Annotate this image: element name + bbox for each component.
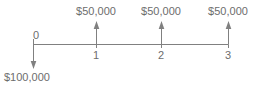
cash-flow-timeline-diagram: 0 $100,000 $50,000 $50,000 $50,000 1 2 3: [0, 0, 264, 91]
inflow-amount-label-1: $50,000: [76, 6, 116, 17]
inflow-amount-label-3: $50,000: [208, 6, 248, 17]
outflow-arrowhead-0: [31, 61, 37, 69]
inflow-arrowhead-2: [159, 21, 165, 29]
outflow-amount-label-0: $100,000: [4, 72, 50, 83]
period-label-1: 1: [93, 50, 99, 61]
period-label-2: 2: [158, 50, 164, 61]
inflow-arrowhead-3: [226, 21, 232, 29]
period-label-0: 0: [33, 30, 39, 41]
inflow-amount-label-2: $50,000: [141, 6, 181, 17]
period-label-3: 3: [225, 50, 231, 61]
inflow-arrowhead-1: [94, 21, 100, 29]
